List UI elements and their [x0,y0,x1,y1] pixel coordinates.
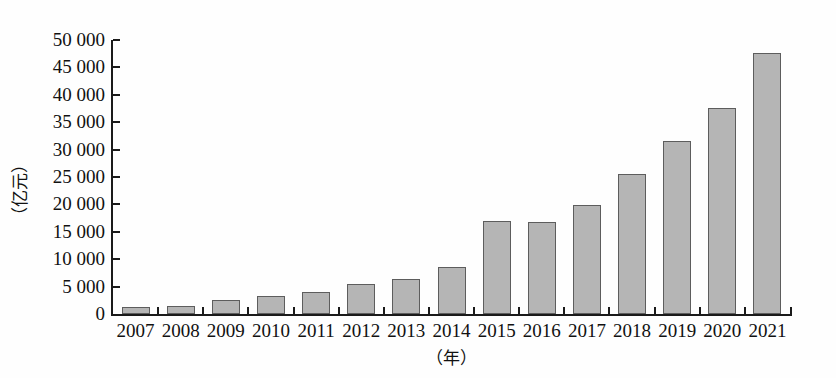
x-axis-tick-label-2013: 2013 [384,320,429,342]
x-axis-tick-mark [608,307,610,314]
x-axis-tick-mark [383,307,385,314]
x-axis-tick-label-2012: 2012 [339,320,384,342]
x-axis-tick-mark [473,307,475,314]
x-axis-tick-mark [157,307,159,314]
x-axis-tick-mark [202,307,204,314]
x-axis-tick-label-2016: 2016 [519,320,564,342]
x-axis-tick-label-2014: 2014 [429,320,474,342]
x-axis-tick-mark [518,307,520,314]
x-axis-tick-label-2008: 2008 [158,320,203,342]
x-axis-tick-mark [293,307,295,314]
x-axis-tick-mark [428,307,430,314]
x-axis-tick-mark [247,307,249,314]
x-axis-tick-label-2021: 2021 [745,320,790,342]
x-axis-tick-label-2015: 2015 [474,320,519,342]
x-axis-tick-label-2009: 2009 [203,320,248,342]
x-axis-tick-mark [563,307,565,314]
x-axis-tick-label-2010: 2010 [248,320,293,342]
x-axis-tick-label-2011: 2011 [294,320,339,342]
x-axis-tick-mark [744,307,746,314]
x-axis-tick-label-2019: 2019 [655,320,700,342]
x-axis-tick-label-2007: 2007 [113,320,158,342]
x-axis-tick-label-2018: 2018 [609,320,654,342]
x-axis-tick-label-2017: 2017 [564,320,609,342]
x-axis-title: （年） [113,344,790,369]
x-axis-tick-label-2020: 2020 [700,320,745,342]
x-axis-tick-mark [654,307,656,314]
x-axis-ticks: 2007200820092010201120122013201420152016… [0,0,836,378]
x-axis-tick-mark [338,307,340,314]
chart-canvas: （亿元） 05 00010 00015 00020 00025 00030 00… [0,0,836,378]
x-axis-tick-mark [699,307,701,314]
